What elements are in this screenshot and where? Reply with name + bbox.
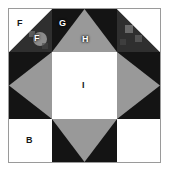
cell-top-right: [117, 9, 160, 52]
corner-square-b: [9, 119, 52, 162]
patch-dark-top-right-speckle: [120, 39, 126, 45]
cell-bottom-left: B: [9, 119, 52, 162]
patch-dark-top-left-speckle: [42, 43, 48, 49]
quilt-block-grid: F F G H: [9, 9, 160, 162]
patch-light-i: [52, 52, 117, 119]
half-square-triangle-top-right: [117, 9, 160, 52]
center-square-patch: [52, 52, 117, 119]
flying-geese-down: [52, 119, 117, 162]
cell-bottom-center: [52, 119, 117, 162]
flying-geese-up: [52, 9, 117, 52]
half-square-triangle-top-left: [9, 9, 52, 52]
cell-top-center: G H: [52, 9, 117, 52]
cell-center: I: [52, 52, 117, 119]
patch-dark-top-left-speckle: [29, 31, 35, 37]
cell-bottom-right: [117, 119, 160, 162]
cell-middle-right: [117, 52, 160, 119]
patch-light-b: [9, 119, 52, 162]
cell-top-left: F F: [9, 9, 52, 52]
cell-middle-left: [9, 52, 52, 119]
quilt-block-figure: F F G H: [0, 0, 170, 173]
flying-geese-right: [117, 52, 160, 119]
corner-square-bottom-right: [117, 119, 160, 162]
patch-light-bottom-right: [117, 119, 160, 162]
patch-dark-top-right-speckle: [135, 35, 142, 42]
patch-dark-top-right-speckle: [125, 25, 133, 33]
flying-geese-left: [9, 52, 52, 119]
